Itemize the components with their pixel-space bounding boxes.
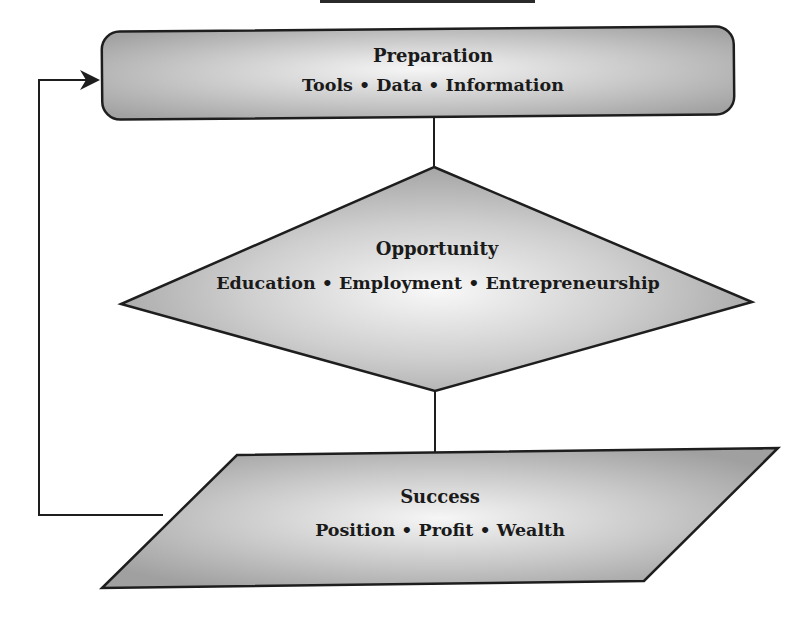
node-opportunity: Opportunity Education • Employment • Ent… xyxy=(121,167,752,391)
success-subtitle: Position • Profit • Wealth xyxy=(315,520,565,540)
flowchart-diagram: Preparation Tools • Data • Information O… xyxy=(0,0,811,620)
preparation-subtitle: Tools • Data • Information xyxy=(302,75,564,95)
preparation-title: Preparation xyxy=(373,45,493,66)
node-success: Success Position • Profit • Wealth xyxy=(102,448,778,588)
node-preparation: Preparation Tools • Data • Information xyxy=(102,26,735,120)
success-parallelogram xyxy=(102,448,778,588)
success-title: Success xyxy=(400,486,480,507)
preparation-box xyxy=(102,26,735,120)
opportunity-title: Opportunity xyxy=(376,238,499,259)
opportunity-subtitle: Education • Employment • Entrepreneurshi… xyxy=(216,273,660,293)
